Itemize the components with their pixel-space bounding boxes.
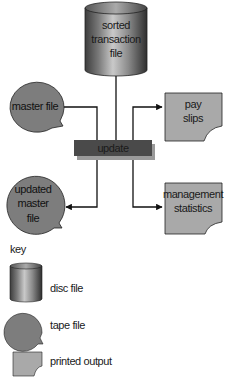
node-label: sorted [102,19,130,31]
edge-update-to-mgmt-stats [133,160,162,207]
key-label-printed: printed output [50,355,112,367]
key-printed-symbol [13,352,42,376]
key-label-tape: tape file [50,319,85,331]
edge-update-to-updated-master [66,160,97,207]
node-label: management [163,188,224,200]
node-label: master [17,197,49,209]
node-label: master file [12,100,59,112]
key-label-disc: disc file [50,282,83,294]
edge-master-to-update [64,107,97,141]
key-tape-symbol [4,313,43,351]
node-label: statistics [174,202,213,214]
node-label: updated [15,183,52,195]
node-label: update [97,142,129,154]
key-title: key [10,243,27,255]
node-label: file [27,212,40,224]
node-pay-slips: pay slips [165,93,222,141]
node-updated-master-file: updated master file [7,176,65,234]
node-label: slips [183,112,204,124]
node-management-statistics: management statistics [163,183,224,234]
node-update: update [74,140,155,160]
node-label: file [110,47,123,59]
key-disc-symbol [10,263,42,302]
key: key disc file tape file printed output [4,243,112,376]
node-master-file: master file [10,82,64,132]
node-label: transaction [91,33,141,45]
node-label: pay [185,98,202,110]
node-sorted-transaction-file: sorted transaction file [85,2,147,76]
edge-update-to-payslips [133,107,162,141]
